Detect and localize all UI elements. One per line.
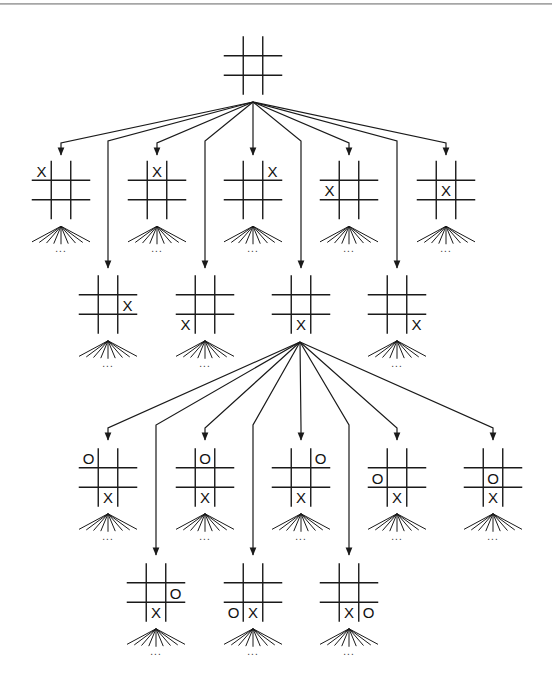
x-mark: X	[411, 316, 421, 333]
board-o-ml: OX...	[368, 448, 427, 542]
x-mark: X	[248, 604, 258, 621]
continuation-ellipsis: ...	[199, 358, 210, 369]
board-o-mr: OX...	[127, 563, 186, 657]
collapsed-subtree-fan	[176, 341, 234, 359]
grid-lines	[224, 36, 283, 95]
continuation-ellipsis: ...	[343, 243, 354, 254]
board-o-tr: OX...	[272, 448, 331, 542]
x-mark: X	[296, 489, 306, 506]
collapsed-subtree-fan	[464, 514, 522, 532]
collapsed-subtree-fan	[224, 629, 282, 647]
collapsed-subtree-fan	[176, 514, 234, 532]
board-x-mr: X...	[79, 275, 138, 369]
o-mark: O	[372, 470, 384, 487]
continuation-ellipsis: ...	[151, 243, 162, 254]
node-layer: X...X...X...X...X...X...X...XX...OX...OX…	[32, 36, 523, 657]
board-x-br: X...	[368, 275, 427, 369]
o-mark: O	[487, 470, 499, 487]
game-tree-diagram: X...X...X...X...X...X...X...XX...OX...OX…	[0, 0, 552, 686]
continuation-ellipsis: ...	[487, 531, 498, 542]
board-x-ml: X...	[320, 161, 379, 255]
collapsed-subtree-fan	[272, 514, 330, 532]
x-mark: X	[200, 489, 210, 506]
continuation-ellipsis: ...	[343, 646, 354, 657]
edge-root-to-x-mr	[108, 102, 253, 268]
collapsed-subtree-fan	[32, 226, 90, 244]
continuation-ellipsis: ...	[102, 358, 113, 369]
o-mark: O	[170, 585, 182, 602]
o-mark: O	[363, 604, 375, 621]
x-mark: X	[441, 182, 451, 199]
board-o-bl: OX...	[224, 563, 283, 657]
x-mark: X	[296, 316, 306, 333]
board-x-tr: X...	[224, 161, 283, 255]
board-x-tl: X...	[32, 161, 91, 255]
collapsed-subtree-fan	[224, 226, 282, 244]
collapsed-subtree-fan	[368, 514, 426, 532]
x-mark: X	[488, 489, 498, 506]
board-o-br: XO...	[320, 563, 379, 657]
board-o-tl: OX...	[79, 448, 138, 542]
continuation-ellipsis: ...	[102, 531, 113, 542]
continuation-ellipsis: ...	[247, 243, 258, 254]
collapsed-subtree-fan	[127, 629, 185, 647]
continuation-ellipsis: ...	[391, 531, 402, 542]
continuation-ellipsis: ...	[55, 243, 66, 254]
board-x-tm: X...	[128, 161, 187, 255]
x-mark: X	[392, 489, 402, 506]
collapsed-subtree-fan	[79, 341, 137, 359]
continuation-ellipsis: ...	[440, 243, 451, 254]
continuation-ellipsis: ...	[199, 531, 210, 542]
collapsed-subtree-fan	[320, 226, 378, 244]
board-x-bl: X...	[176, 275, 235, 369]
continuation-ellipsis: ...	[247, 646, 258, 657]
continuation-ellipsis: ...	[150, 646, 161, 657]
o-mark: O	[228, 604, 240, 621]
board-o-c: OX...	[464, 448, 523, 542]
x-mark: X	[103, 489, 113, 506]
collapsed-subtree-fan	[417, 226, 475, 244]
continuation-ellipsis: ...	[295, 531, 306, 542]
o-mark: O	[315, 450, 327, 467]
edge-x-bm-to-o-tr	[300, 342, 301, 440]
board-o-tm: OX...	[176, 448, 235, 542]
board-root	[224, 36, 283, 95]
board-x-c: X...	[417, 161, 476, 255]
o-mark: O	[199, 450, 211, 467]
o-mark: O	[83, 450, 95, 467]
x-mark: X	[152, 163, 162, 180]
x-mark: X	[324, 182, 334, 199]
x-mark: X	[180, 316, 190, 333]
x-mark: X	[122, 297, 132, 314]
edge-x-bm-to-o-br	[300, 342, 349, 555]
x-mark: X	[267, 163, 277, 180]
collapsed-subtree-fan	[79, 514, 137, 532]
collapsed-subtree-fan	[320, 629, 378, 647]
board-x-bm: X	[272, 275, 331, 334]
x-mark: X	[151, 604, 161, 621]
x-mark: X	[344, 604, 354, 621]
x-mark: X	[36, 163, 46, 180]
collapsed-subtree-fan	[128, 226, 186, 244]
collapsed-subtree-fan	[368, 341, 426, 359]
continuation-ellipsis: ...	[391, 358, 402, 369]
